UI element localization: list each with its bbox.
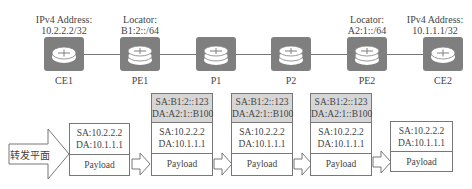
link-pe1-p1 (160, 54, 196, 55)
node-name-pe1: PE1 (120, 75, 160, 86)
payload: Payload (70, 155, 129, 175)
ce2-annotation-line2: 10.1.1.1/32 (398, 25, 472, 36)
packet-p2-pe2: SA:B1:2::123 DA:A2:1::B100 SA:10.2.2.2 D… (310, 93, 372, 176)
payload: Payload (152, 154, 212, 174)
inner-ipv4-header: SA:10.2.2.2 DA:10.1.1.1 (232, 123, 292, 154)
packet-pe2-ce2: SA:10.2.2.2 DA:10.1.1.1 Payload (390, 121, 453, 172)
inner-da: DA:10.1.1.1 (232, 138, 292, 150)
packet-ce1-pe1: SA:10.2.2.2 DA:10.1.1.1 Payload (69, 123, 130, 176)
router-icon (347, 37, 387, 71)
inner-ipv4-header: SA:10.2.2.2 DA:10.1.1.1 (70, 124, 129, 155)
payload: Payload (391, 152, 452, 172)
inner-sa: SA:10.2.2.2 (70, 127, 129, 139)
outer-ipv6-header: SA:B1:2::123 DA:A2:1::B100 (311, 94, 371, 123)
node-name-pe2: PE2 (347, 75, 387, 86)
inner-da: DA:10.1.1.1 (70, 139, 129, 151)
inner-da: DA:10.1.1.1 (391, 137, 452, 149)
link-ce1-pe1 (84, 54, 120, 55)
packet-pe1-p1: SA:B1:2::123 DA:A2:1::B100 SA:10.2.2.2 D… (151, 93, 213, 176)
router-icon (196, 37, 236, 71)
outer-da: DA:A2:1::B100 (311, 108, 371, 120)
inner-sa: SA:10.2.2.2 (152, 126, 212, 138)
pe2-annotation-line2: A2:1::/64 (337, 25, 397, 36)
inner-sa: SA:10.2.2.2 (232, 126, 292, 138)
outer-da: DA:A2:1::B100 (232, 108, 292, 120)
router-ce2 (423, 37, 463, 71)
router-p2 (271, 37, 311, 71)
outer-ipv6-header: SA:B1:2::123 DA:A2:1::B100 (232, 94, 292, 123)
outer-sa: SA:B1:2::123 (311, 96, 371, 108)
inner-da: DA:10.1.1.1 (311, 138, 371, 150)
ce2-annotation: IPv4 Address: 10.1.1.1/32 (398, 14, 472, 36)
router-icon (423, 37, 463, 71)
packet-p1-p2: SA:B1:2::123 DA:A2:1::B100 SA:10.2.2.2 D… (231, 93, 293, 176)
router-p1 (196, 37, 236, 71)
outer-da: DA:A2:1::B100 (152, 108, 212, 120)
link-p1-p2 (235, 54, 271, 55)
pe1-annotation-line1: Locator: (110, 14, 170, 25)
inner-da: DA:10.1.1.1 (152, 138, 212, 150)
link-p2-pe2 (311, 54, 347, 55)
router-icon (44, 37, 84, 71)
payload: Payload (232, 154, 292, 174)
node-name-p1: P1 (196, 75, 236, 86)
inner-ipv4-header: SA:10.2.2.2 DA:10.1.1.1 (152, 123, 212, 154)
pe2-annotation-line1: Locator: (337, 14, 397, 25)
forwarding-plane-label: 转发平面 (10, 147, 50, 162)
hop-arrow-4 (372, 150, 392, 174)
hop-arrow-1 (131, 152, 151, 176)
inner-ipv4-header: SA:10.2.2.2 DA:10.1.1.1 (391, 122, 452, 152)
inner-ipv4-header: SA:10.2.2.2 DA:10.1.1.1 (311, 123, 371, 154)
outer-ipv6-header: SA:B1:2::123 DA:A2:1::B100 (152, 94, 212, 123)
node-name-p2: P2 (271, 75, 311, 86)
router-icon (120, 37, 160, 71)
router-pe2 (347, 37, 387, 71)
ce2-annotation-line1: IPv4 Address: (398, 14, 472, 25)
router-icon (271, 37, 311, 71)
inner-sa: SA:10.2.2.2 (391, 125, 452, 137)
router-pe1 (120, 37, 160, 71)
node-name-ce2: CE2 (423, 75, 463, 86)
router-ce1 (44, 37, 84, 71)
ce1-annotation-line1: IPv4 Address: (28, 14, 100, 25)
ce1-annotation: IPv4 Address: 10.2.2.2/32 (28, 14, 100, 36)
link-pe2-ce2 (387, 54, 423, 55)
hop-arrow-2 (213, 152, 233, 176)
node-name-ce1: CE1 (44, 75, 84, 86)
outer-sa: SA:B1:2::123 (232, 96, 292, 108)
payload: Payload (311, 154, 371, 174)
pe1-annotation-line2: B1:2::/64 (110, 25, 170, 36)
pe2-annotation: Locator: A2:1::/64 (337, 14, 397, 36)
inner-sa: SA:10.2.2.2 (311, 126, 371, 138)
ce1-annotation-line2: 10.2.2.2/32 (28, 25, 100, 36)
pe1-annotation: Locator: B1:2::/64 (110, 14, 170, 36)
outer-sa: SA:B1:2::123 (152, 96, 212, 108)
